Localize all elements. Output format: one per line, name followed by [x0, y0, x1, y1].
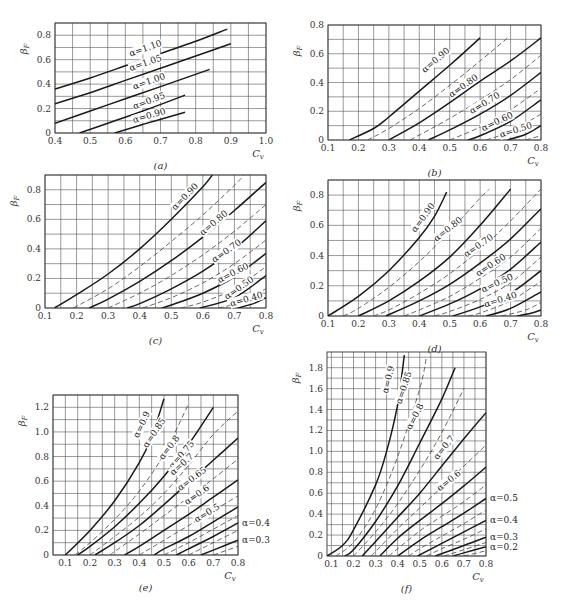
series-label: α=0.90 — [419, 45, 451, 75]
x-tick-label: 0.2 — [351, 143, 365, 153]
x-tick-label: 0.5 — [83, 136, 98, 146]
x-tick-label: 0.4 — [412, 319, 427, 329]
x-tick-label: 0.4 — [132, 558, 147, 568]
series-label: α=0.2 — [490, 542, 518, 552]
y-axis-label: βF — [8, 195, 21, 208]
series-label-group: α=1.00 — [131, 71, 167, 92]
x-tick-label: 0.5 — [164, 311, 179, 321]
x-tick-label: 0.6 — [118, 136, 133, 146]
series-label-group: α=0.5 — [192, 501, 222, 524]
subplot-caption: (e) — [139, 582, 153, 593]
y-tick-label: 1.2 — [35, 402, 49, 412]
x-tick-label: 0.5 — [443, 319, 458, 329]
x-tick-label: 0.2 — [351, 319, 365, 329]
x-tick-label: 0.3 — [368, 559, 383, 569]
subplot-f: 0.10.20.30.40.50.60.70.800.20.40.60.81.0… — [290, 352, 518, 594]
y-tick-label: 0.8 — [27, 185, 42, 195]
x-tick-label: 0.7 — [206, 558, 221, 568]
x-tick-label: 0.5 — [413, 559, 428, 569]
x-axis-label: Cv — [472, 571, 484, 584]
series-label-group: α=0.80 — [431, 214, 464, 243]
x-axis-label: Cv — [224, 570, 236, 583]
series-label: α=0.5 — [490, 493, 518, 503]
series-label: α=0.80 — [447, 72, 480, 100]
series-label: α=0.90 — [170, 181, 201, 212]
series-label: α=1.00 — [131, 71, 166, 92]
x-axis-label: Cv — [527, 331, 539, 344]
subplot-caption: (c) — [149, 335, 163, 346]
y-axis-label: βF — [16, 415, 29, 428]
x-tick-label: 0.6 — [473, 319, 488, 329]
y-tick-label: 0.2 — [310, 281, 324, 291]
x-tick-label: 0.8 — [479, 559, 494, 569]
y-tick-label: 0 — [318, 135, 324, 145]
series-label: α=0.80 — [432, 214, 465, 243]
series-label: α=0.85 — [394, 370, 414, 405]
x-tick-label: 0.4 — [133, 311, 148, 321]
y-tick-label: 0.6 — [35, 476, 50, 486]
y-axis-label: βF — [291, 45, 304, 58]
series-line-0.30 — [517, 310, 541, 316]
series-label-group: α=0.85 — [394, 370, 414, 406]
subplot-b: 0.10.20.30.40.50.60.70.800.20.40.60.8Cvβ… — [291, 20, 548, 178]
series-label: α=0.70 — [210, 237, 244, 265]
y-axis-label: βF — [290, 372, 303, 385]
x-tick-label: 0.9 — [224, 136, 239, 146]
x-tick-label: 0.8 — [259, 311, 274, 321]
figure-panel: 0.40.50.60.70.80.91.000.20.40.60.8CvβF(a… — [0, 0, 570, 606]
series-label-group: α=0.80 — [446, 72, 480, 100]
y-tick-label: 0.4 — [310, 78, 325, 88]
series-label: α=0.40 — [483, 290, 518, 310]
y-axis-label: βF — [291, 200, 304, 213]
x-tick-label: 0.8 — [534, 319, 549, 329]
subplot-c: 0.10.20.30.40.50.60.70.800.20.40.60.8Cvβ… — [8, 175, 273, 346]
y-tick-label: 0.8 — [37, 30, 52, 40]
subplot-e: 0.10.20.30.40.50.60.70.800.20.40.60.81.0… — [16, 395, 270, 593]
y-tick-label: 0.6 — [309, 488, 324, 498]
series-label-group: α=0.90 — [409, 201, 437, 235]
x-tick-label: 0.7 — [227, 311, 242, 321]
x-tick-label: 0.3 — [382, 143, 397, 153]
subplot-a: 0.40.50.60.70.80.91.000.20.40.60.8CvβF(a… — [18, 23, 273, 171]
x-axis-label: Cv — [252, 148, 264, 161]
y-tick-label: 1.6 — [309, 384, 324, 394]
y-tick-label: 0.4 — [37, 79, 52, 89]
subplot-d: 0.10.20.30.40.50.60.70.800.20.40.60.8Cvβ… — [291, 180, 548, 354]
x-tick-label: 0.8 — [231, 558, 246, 568]
series-label: α=0.90 — [409, 201, 437, 234]
y-tick-label: 0.2 — [35, 525, 49, 535]
y-tick-label: 0 — [35, 303, 41, 313]
y-tick-label: 1.0 — [309, 446, 324, 456]
series-label: α=0.5 — [192, 501, 221, 524]
y-tick-label: 0.2 — [309, 530, 323, 540]
y-tick-label: 0.8 — [310, 190, 325, 200]
series-label-group: α=0.90 — [169, 181, 200, 213]
x-tick-label: 1.0 — [259, 136, 274, 146]
x-tick-label: 0.3 — [382, 319, 397, 329]
y-tick-label: 0 — [318, 311, 324, 321]
series-label: α=0.4 — [242, 518, 270, 528]
x-tick-label: 0.1 — [324, 559, 338, 569]
series-label-group: α=0.90 — [419, 45, 452, 75]
x-tick-label: 0.8 — [189, 136, 204, 146]
x-tick-label: 0.3 — [101, 311, 116, 321]
y-axis-label: βF — [18, 43, 31, 56]
y-tick-label: 0 — [317, 551, 323, 561]
series-label-group: α=0.80 — [197, 208, 230, 238]
x-tick-label: 0.5 — [443, 143, 458, 153]
y-tick-label: 0.6 — [310, 220, 325, 230]
y-tick-label: 0.2 — [37, 104, 51, 114]
x-tick-label: 0.3 — [108, 558, 123, 568]
x-tick-label: 0.6 — [473, 143, 488, 153]
y-tick-label: 0.8 — [309, 467, 324, 477]
series-label: α=0.80 — [197, 208, 229, 238]
x-axis-label: Cv — [252, 323, 264, 336]
subplot-caption: (a) — [154, 160, 168, 171]
y-tick-label: 1.2 — [309, 425, 323, 435]
series-label: α=0.8 — [404, 402, 426, 432]
y-tick-label: 0.8 — [310, 20, 325, 30]
y-tick-label: 0.6 — [37, 55, 52, 65]
x-tick-label: 0.6 — [435, 559, 450, 569]
x-tick-label: 0.5 — [157, 558, 172, 568]
x-axis-label: Cv — [527, 155, 539, 168]
